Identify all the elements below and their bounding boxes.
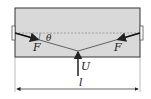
label-force-left: F <box>32 41 41 54</box>
right-anchor-tab <box>140 26 143 40</box>
label-force-right: F <box>113 41 122 54</box>
label-length: l <box>79 76 83 89</box>
left-anchor-tab <box>12 26 15 40</box>
force-diagram: F F θ U l <box>0 0 151 99</box>
label-angle: θ <box>46 33 52 43</box>
label-upward-force: U <box>81 60 91 73</box>
